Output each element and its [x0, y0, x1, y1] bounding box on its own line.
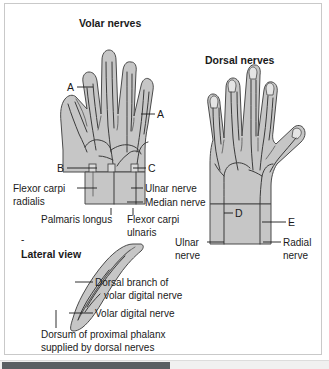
dorsal-nail-little: [210, 96, 218, 108]
label-dorsum-line1: Dorsum of proximal phalanx: [41, 329, 166, 340]
lateral-panel-title: Lateral view: [21, 248, 82, 260]
volar-letter-B: B: [57, 162, 64, 174]
label-dorsal-radial-nerve-line1: Radial: [283, 237, 311, 248]
label-flexor-carpi-ulnaris-line2: ulnaris: [127, 227, 156, 238]
label-median-nerve: Median nerve: [145, 197, 206, 208]
label-dorsal-ulnar-nerve-line2: nerve: [175, 250, 200, 261]
label-flexor-carpi-ulnaris-line1: Flexor carpi: [127, 214, 179, 225]
label-dorsum-line2: supplied by dorsal nerves: [41, 342, 154, 353]
label-dorsal-ulnar-nerve-line1: Ulnar: [175, 237, 200, 248]
volar-hand-illustration: [61, 50, 154, 204]
volar-letter-A-upper: A: [67, 81, 74, 93]
screenshot-root: Volar nerves Dorsal nerves: [0, 0, 329, 369]
anatomy-figure: Volar nerves Dorsal nerves: [5, 4, 321, 354]
volar-letter-C: C: [148, 162, 156, 174]
horizontal-scroll-thumb[interactable]: [2, 362, 170, 369]
dorsal-nail-ring: [228, 80, 236, 92]
volar-stray-tick: -: [21, 234, 24, 245]
figure-frame: Volar nerves Dorsal nerves: [4, 3, 322, 355]
horizontal-scrollbar[interactable]: [0, 360, 329, 369]
label-palmaris-longus: Palmaris longus: [41, 214, 112, 225]
dorsal-letter-E: E: [288, 216, 295, 228]
volar-panel-title: Volar nerves: [79, 17, 141, 29]
lateral-text-callouts: Dorsal branch of volar digital nerve Vol…: [41, 277, 183, 353]
label-dorsal-branch-line1: Dorsal branch of: [95, 277, 169, 288]
dorsal-letter-D: D: [235, 207, 243, 219]
label-dorsal-radial-nerve-line2: nerve: [283, 250, 308, 261]
label-flexor-carpi-radialis-line2: radialis: [13, 196, 45, 207]
label-flexor-carpi-radialis-line1: Flexor carpi: [13, 183, 65, 194]
label-dorsal-branch-line2: volar digital nerve: [104, 290, 183, 301]
dorsal-nail-middle: [249, 67, 257, 79]
dorsal-panel-title: Dorsal nerves: [205, 54, 275, 66]
label-volar-digital-nerve: Volar digital nerve: [95, 308, 175, 319]
volar-letter-A-lower: A: [157, 108, 164, 120]
dorsal-nail-index: [266, 83, 274, 95]
label-ulnar-nerve-volar: Ulnar nerve: [145, 183, 197, 194]
